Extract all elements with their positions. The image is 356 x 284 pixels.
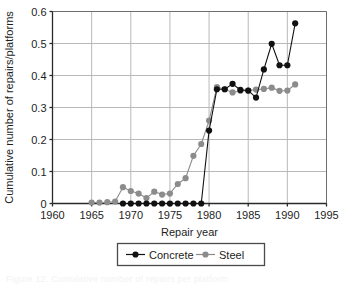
data-point-concrete <box>261 66 267 72</box>
x-tick-label: 1975 <box>158 209 182 221</box>
data-point-steel <box>151 189 157 195</box>
data-point-concrete <box>143 200 149 206</box>
x-tick-label: 1980 <box>197 209 221 221</box>
data-point-steel <box>175 181 181 187</box>
data-point-concrete <box>245 87 251 93</box>
figure-container: 00.10.20.30.40.50.6196019651970197519801… <box>0 0 356 284</box>
data-point-concrete <box>222 86 228 92</box>
data-point-steel <box>292 81 298 87</box>
data-point-steel <box>89 199 95 205</box>
data-point-concrete <box>214 86 220 92</box>
data-point-steel <box>190 153 196 159</box>
data-point-concrete <box>151 200 157 206</box>
data-point-steel <box>159 191 165 197</box>
data-point-concrete <box>159 200 165 206</box>
x-tick-label: 1960 <box>40 209 64 221</box>
y-tick-label: 0.2 <box>31 134 46 146</box>
x-tick-label: 1995 <box>314 209 338 221</box>
legend-label-steel: Steel <box>219 249 244 261</box>
data-point-concrete <box>284 62 290 68</box>
legend-marker-steel <box>202 251 208 257</box>
data-point-steel <box>96 199 102 205</box>
data-point-concrete <box>276 62 282 68</box>
data-point-steel <box>120 184 126 190</box>
figure-caption: Figure 12. Cumulative number of repairs … <box>6 274 228 284</box>
y-tick-label: 0.4 <box>31 70 46 82</box>
data-point-steel <box>276 88 282 94</box>
data-point-steel <box>143 195 149 201</box>
x-axis-title: Repair year <box>161 226 218 238</box>
x-tick-label: 1990 <box>275 209 299 221</box>
data-point-concrete <box>229 81 235 87</box>
data-point-concrete <box>253 94 259 100</box>
data-point-steel <box>167 190 173 196</box>
data-point-steel <box>128 188 134 194</box>
data-point-steel <box>284 87 290 93</box>
x-tick-label: 1965 <box>79 209 103 221</box>
y-axis-title: Cumulative number of repairs/platforms <box>3 11 15 204</box>
data-point-concrete <box>175 200 181 206</box>
y-tick-label: 0.6 <box>31 6 46 18</box>
data-point-steel <box>104 199 110 205</box>
data-point-steel <box>198 141 204 147</box>
data-point-concrete <box>198 200 204 206</box>
data-point-concrete <box>190 200 196 206</box>
data-point-steel <box>182 175 188 181</box>
data-point-steel <box>269 85 275 91</box>
y-tick-label: 0.5 <box>31 38 46 50</box>
data-point-concrete <box>237 87 243 93</box>
data-point-concrete <box>269 41 275 47</box>
data-point-concrete <box>128 200 134 206</box>
data-point-concrete <box>292 20 298 26</box>
data-point-concrete <box>136 200 142 206</box>
data-point-steel <box>261 86 267 92</box>
x-tick-label: 1985 <box>236 209 260 221</box>
legend-label-concrete: Concrete <box>149 249 194 261</box>
x-tick-label: 1970 <box>119 209 143 221</box>
data-point-steel <box>136 190 142 196</box>
data-point-concrete <box>120 200 126 206</box>
y-tick-label: 0.3 <box>31 102 46 114</box>
data-point-concrete <box>206 127 212 133</box>
data-point-steel <box>112 198 118 204</box>
data-point-concrete <box>167 200 173 206</box>
legend-marker-concrete <box>132 251 138 257</box>
data-point-steel <box>229 89 235 95</box>
repair-year-line-chart: 00.10.20.30.40.50.6196019651970197519801… <box>0 0 356 284</box>
y-tick-label: 0.1 <box>31 166 46 178</box>
data-point-concrete <box>182 200 188 206</box>
